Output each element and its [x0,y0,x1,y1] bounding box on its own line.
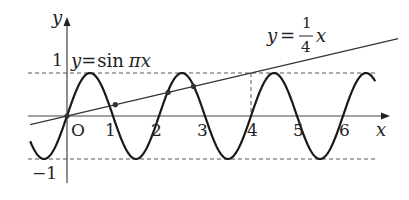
line-label-y: y [266,25,278,46]
line-label-eq: = [280,25,295,46]
y-tick-label-minus1: −1 [32,163,57,183]
x-tick-label: 2 [151,120,162,140]
x-tick-labels: 123456 [105,120,350,140]
sine-label-func: sin [97,50,124,71]
function-graph: x y O 123456 1 −1 y=sinπx y = 1 4 x [0,0,409,200]
sine-label-eq: = [81,50,96,71]
intersection-point [191,84,196,89]
sine-label: y=sinπx [70,50,151,71]
sine-label-arg: πx [128,50,151,71]
x-tick-label: 1 [105,120,116,140]
intersection-point [166,90,171,95]
x-tick-label: 5 [293,120,304,140]
x-tick-label: 4 [247,120,258,140]
intersection-point [113,102,118,107]
intersection-point [64,113,69,118]
svg-text:y=sinπx: y=sinπx [70,50,151,71]
x-tick-label: 6 [339,120,350,140]
line-label-x: x [316,25,326,46]
line-label-denominator: 4 [301,38,311,56]
y-axis-arrow [64,17,71,26]
axes [28,17,390,183]
x-tick-label: 3 [197,120,208,140]
y-tick-label-1: 1 [52,50,63,70]
origin-label: O [71,120,85,140]
line-label: y = 1 4 x [266,14,326,56]
y-axis-label: y [51,7,63,28]
x-axis-label: x [376,119,386,140]
line-label-numerator: 1 [302,14,312,32]
